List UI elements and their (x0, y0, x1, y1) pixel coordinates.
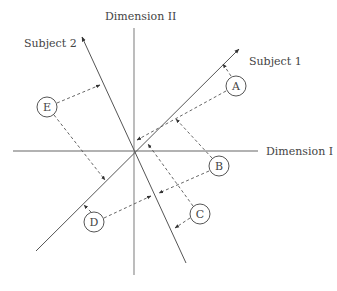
dimension-2-label: Dimension II (105, 11, 176, 22)
dimension-1-label: Dimension I (266, 146, 333, 157)
projection-a-subject-1 (223, 64, 231, 76)
projection-a-subject-2 (137, 91, 226, 140)
subject-2-label: Subject 2 (24, 38, 77, 49)
stimulus-d-label: D (90, 216, 99, 229)
stimulus-b-label: B (215, 160, 223, 173)
projection-e-subject-1 (54, 115, 105, 180)
subject-1-vector (36, 49, 239, 251)
projection-c-subject-1 (148, 144, 193, 206)
stimulus-e-label: E (43, 101, 51, 114)
subject-1-label: Subject 1 (249, 56, 302, 67)
projection-b-subject-1 (176, 119, 212, 158)
projection-d-subject-1 (84, 205, 91, 212)
projection-b-subject-2 (159, 171, 209, 193)
stimulus-a-label: A (231, 80, 241, 93)
projection-d-subject-2 (104, 196, 151, 218)
projection-e-subject-2 (57, 85, 100, 103)
projection-c-subject-2 (175, 218, 190, 228)
stimulus-c-label: C (196, 208, 204, 221)
